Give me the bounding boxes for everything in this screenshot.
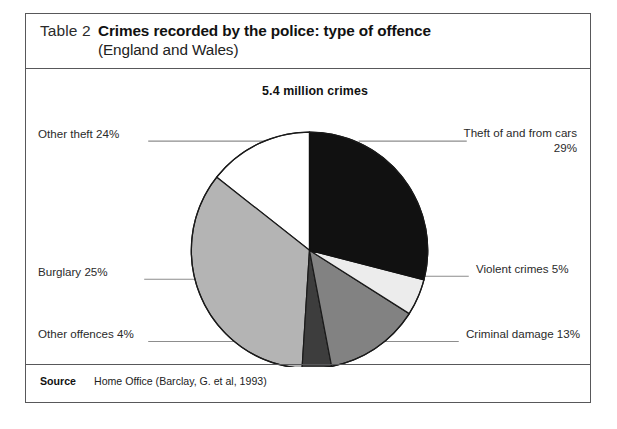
label-theft-of-and-from-cars-line1: Theft of and from cars <box>374 125 577 140</box>
chart-area: 5.4 million crimes <box>26 69 590 364</box>
label-burglary: Burglary 25% <box>38 264 108 279</box>
source-text: Home Office (Barclay, G. et al, 1993) <box>94 375 267 387</box>
source-label: Source <box>40 375 76 387</box>
table-title: Crimes recorded by the police: type of o… <box>98 21 582 60</box>
label-criminal-damage: Criminal damage 13% <box>466 326 580 341</box>
label-other-offences: Other offences 4% <box>38 326 134 341</box>
table-number: Table 2 <box>40 22 91 40</box>
table-frame: Table 2 Crimes recorded by the police: t… <box>25 13 591 403</box>
table-header: Table 2 Crimes recorded by the police: t… <box>26 14 590 69</box>
table-footer: Source Home Office (Barclay, G. et al, 1… <box>26 364 590 402</box>
label-theft-of-and-from-cars-line2: 29% <box>374 140 577 155</box>
table-title-main: Crimes recorded by the police: type of o… <box>98 21 582 40</box>
label-other-theft: Other theft 24% <box>38 126 119 141</box>
pie-chart <box>26 69 590 367</box>
label-violent-crimes: Violent crimes 5% <box>476 261 569 276</box>
table-title-subtitle: (England and Wales) <box>98 40 582 60</box>
pie-slices <box>191 132 427 366</box>
